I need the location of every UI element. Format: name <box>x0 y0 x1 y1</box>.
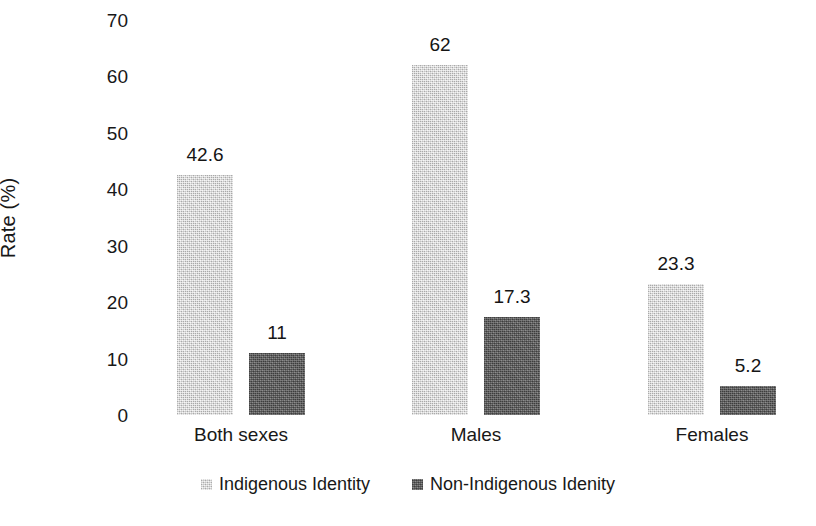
y-axis-tick-20: 20 <box>78 293 128 312</box>
bar <box>484 317 540 415</box>
bar <box>648 284 704 415</box>
x-axis-category-labels: Both sexesMalesFemales <box>140 424 816 454</box>
legend-item[interactable]: Indigenous Identity <box>201 474 370 494</box>
y-axis-title: Rate (%) <box>0 158 20 278</box>
legend-swatch-icon <box>412 479 423 490</box>
bar-value-label: 5.2 <box>703 356 793 375</box>
bar <box>720 386 776 415</box>
bar-value-label: 11 <box>232 323 322 342</box>
plot-area: 42.6116217.323.35.2 <box>140 20 816 415</box>
legend-item[interactable]: Non-Indigenous Idenity <box>412 474 615 494</box>
x-axis-label: Males <box>386 424 566 446</box>
bar <box>249 353 305 415</box>
bar-value-label: 42.6 <box>160 145 250 164</box>
y-axis-tick-10: 10 <box>78 349 128 368</box>
bar-group: 23.35.2 <box>648 20 776 415</box>
y-axis-tick-0: 0 <box>78 406 128 425</box>
bar-value-label: 23.3 <box>631 254 721 273</box>
legend-label: Non-Indigenous Idenity <box>430 474 615 494</box>
bar-chart: Rate (%) 706050403020100 42.6116217.323.… <box>0 0 816 526</box>
y-axis-tick-70: 70 <box>78 11 128 30</box>
y-axis-tick-60: 60 <box>78 67 128 86</box>
y-axis-tick-50: 50 <box>78 123 128 142</box>
y-axis-tick-labels: 706050403020100 <box>78 0 128 526</box>
bar-value-label: 62 <box>395 35 485 54</box>
bar <box>177 175 233 415</box>
y-axis-tick-30: 30 <box>78 236 128 255</box>
legend-swatch-icon <box>201 479 212 490</box>
y-axis-tick-40: 40 <box>78 180 128 199</box>
bar <box>412 65 468 415</box>
bar-group: 42.611 <box>177 20 305 415</box>
x-axis-label: Both sexes <box>151 424 331 446</box>
legend-label: Indigenous Identity <box>219 474 370 494</box>
bar-group: 6217.3 <box>412 20 540 415</box>
bar-value-label: 17.3 <box>467 287 557 306</box>
x-axis-label: Females <box>622 424 802 446</box>
chart-legend: Indigenous IdentityNon-Indigenous Idenit… <box>0 474 816 494</box>
